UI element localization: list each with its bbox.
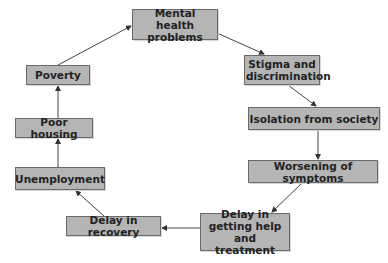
node-unemployment: Unemployment <box>15 167 105 190</box>
node-isolation-from-society: Isolation from society <box>248 107 380 130</box>
node-poor-housing: Poor housing <box>15 118 93 138</box>
node-delay-in-getting-help: Delay in getting help and treatment <box>200 213 290 251</box>
arrow-poverty-mental <box>58 26 131 65</box>
node-mental-health-problems: Mental health problems <box>132 9 218 40</box>
node-worsening-of-symptoms: Worsening of symptoms <box>248 160 378 183</box>
node-stigma-and-discrimination: Stigma and discrimination <box>244 55 320 85</box>
node-poverty: Poverty <box>26 65 90 85</box>
arrow-delayrecovery-unemployment <box>76 191 104 216</box>
node-delay-in-recovery: Delay in recovery <box>66 216 161 236</box>
arrow-mental-stigma <box>217 33 264 54</box>
arrow-stigma-isolation <box>288 85 316 106</box>
